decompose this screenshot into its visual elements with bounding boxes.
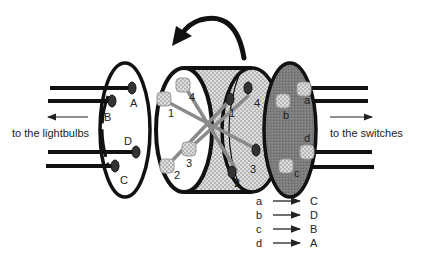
rotor-right-label-2: 2 [234,177,240,189]
map-to-3: A [310,237,318,249]
right-label-b: b [283,109,289,121]
map-from-1: b [256,209,262,221]
rotor-left-label-1: 1 [168,107,174,119]
rotor-left-label-2: 2 [174,169,180,181]
contact-label-B: B [104,111,111,123]
map-from-3: d [256,237,262,249]
mapping-table: a C b D c B d A [256,195,318,249]
map-from-2: c [256,223,262,235]
caption-to-lightbulbs: to the lightbulbs [12,127,90,139]
contact-label-D: D [124,135,132,147]
caption-to-switches: to the switches [330,127,403,139]
map-to-1: D [310,209,318,221]
map-to-0: C [310,195,318,207]
rotor-diagram: A B D C to the lightbulbs [0,0,422,269]
contact-label-C: C [120,174,128,186]
map-to-2: B [310,223,317,235]
right-label-a: a [304,94,311,106]
rotation-arrow-icon [172,18,244,58]
rotor-left-label-3: 3 [186,157,192,169]
right-label-d: d [304,132,310,144]
rotor-left-label-4: 4 [189,91,195,103]
right-label-c: c [294,167,300,179]
left-contacts [108,82,140,172]
contact-label-A: A [130,97,138,109]
rotor-right-label-3: 3 [250,163,256,175]
rotor-right-label-1: 1 [229,107,235,119]
map-from-0: a [256,195,263,207]
rotor-right-label-4: 4 [254,97,260,109]
